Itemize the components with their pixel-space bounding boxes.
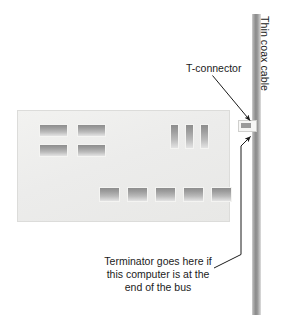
chip-left-1 (39, 124, 68, 137)
chip-bottom-5 (211, 187, 232, 202)
chip-bottom-4 (183, 187, 204, 202)
chip-left-4 (77, 144, 106, 157)
label-t-connector: T-connector (186, 62, 241, 75)
chip-right-2 (185, 124, 194, 149)
chip-right-1 (170, 124, 179, 149)
terminator-note-line-1: Terminator goes here if (104, 255, 211, 267)
t-connector-slot (241, 123, 251, 128)
label-thin-coax-cable: Thin coax cable (258, 16, 271, 91)
diagram-canvas: T-connector Thin coax cable Terminator g… (0, 0, 291, 324)
chip-right-3 (200, 124, 209, 149)
chip-left-2 (77, 124, 106, 137)
label-terminator-note: Terminator goes here if this computer is… (96, 255, 220, 294)
chip-layer (18, 111, 229, 221)
chip-bottom-2 (127, 187, 148, 202)
chip-bottom-1 (99, 187, 120, 202)
chip-bottom-3 (155, 187, 176, 202)
chip-left-3 (39, 144, 68, 157)
terminator-note-line-2: this computer is at the (107, 268, 210, 280)
network-adapter-card (17, 110, 230, 222)
terminator-note-line-3: end of the bus (125, 281, 192, 293)
